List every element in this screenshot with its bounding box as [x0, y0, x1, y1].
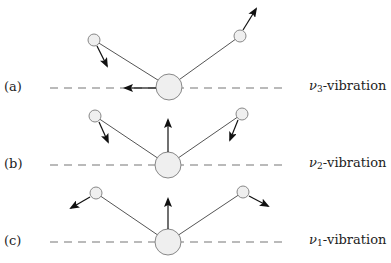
- central-atom: [155, 229, 181, 255]
- panel-label-b: (b): [4, 157, 22, 170]
- left-atom: [88, 34, 100, 46]
- mode-symbol: ν: [309, 155, 317, 170]
- right-atom-displacement-arrow-icon: [230, 120, 238, 140]
- panel-label-a: (a): [4, 80, 22, 93]
- left-atom-displacement-arrow-icon: [97, 46, 107, 66]
- mode-label-c: ν1-vibration: [309, 233, 386, 248]
- vibration-modes-diagram: [0, 0, 391, 263]
- panel-label-c: (c): [4, 234, 21, 247]
- left-atom-displacement-arrow-icon: [71, 197, 90, 208]
- right-atom: [236, 108, 248, 120]
- mode-symbol: ν: [309, 78, 317, 93]
- mode-symbol: ν: [309, 232, 317, 247]
- left-atom: [89, 110, 101, 122]
- panel-a: [50, 9, 284, 100]
- central-atom: [155, 152, 181, 178]
- right-atom-displacement-arrow-icon: [249, 196, 268, 206]
- right-atom: [234, 30, 246, 42]
- mode-label-a: ν3-vibration: [309, 79, 386, 94]
- left-atom-displacement-arrow-icon: [99, 122, 108, 142]
- right-atom: [237, 186, 249, 198]
- mode-suffix: -vibration: [323, 232, 387, 247]
- mode-suffix: -vibration: [323, 155, 387, 170]
- right-bond: [168, 192, 243, 242]
- mode-label-b: ν2-vibration: [309, 156, 386, 171]
- central-atom: [156, 74, 182, 100]
- left-atom: [90, 187, 102, 199]
- right-atom-displacement-arrow-icon: [243, 9, 256, 30]
- panel-c: [50, 186, 284, 255]
- mode-suffix: -vibration: [323, 78, 387, 93]
- panel-b: [50, 108, 284, 178]
